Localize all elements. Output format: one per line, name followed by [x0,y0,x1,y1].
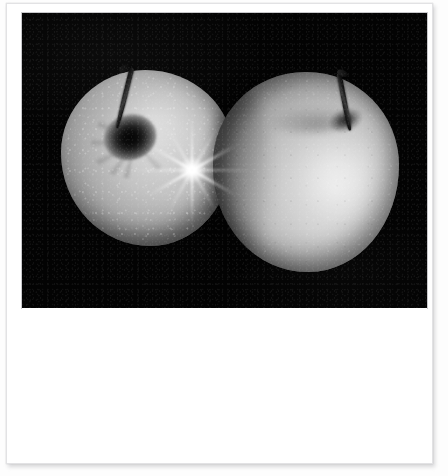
apple-left-speckle-texture [65,74,229,242]
apple-left-calyx-well [98,107,163,166]
caption-text [22,432,427,444]
caption-area[interactable] [22,308,427,460]
page-canvas [0,0,448,476]
apple-right-specular-highlight [295,132,381,222]
apple-right[interactable] [213,72,399,272]
photo-scene [22,13,427,308]
photo-card[interactable] [6,3,433,464]
apple-right-speckle-texture [218,77,394,267]
photograph[interactable] [22,13,427,308]
apple-left[interactable] [61,70,233,246]
